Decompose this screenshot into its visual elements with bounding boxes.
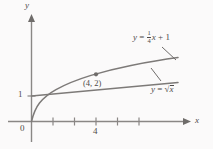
x-axis bbox=[8, 118, 191, 125]
line-label-leader bbox=[162, 47, 176, 60]
origin-label: 0 bbox=[20, 124, 25, 133]
tangency-point-label: (4, 2) bbox=[83, 79, 101, 88]
y-tick-label-1: 1 bbox=[18, 90, 23, 99]
fraction-numerator: 1 bbox=[147, 30, 151, 37]
fraction-denominator: 4 bbox=[147, 38, 151, 45]
radical-sign-icon: √x bbox=[165, 85, 174, 94]
y-axis-label: y bbox=[25, 1, 29, 10]
radical-vinculum bbox=[170, 85, 174, 86]
y-axis bbox=[28, 14, 35, 142]
plot-canvas bbox=[0, 0, 213, 149]
tangent-line-equation-label: y = 14x + 1 bbox=[133, 30, 170, 45]
line-label-constant: 1 bbox=[165, 32, 170, 42]
sqrt-curve-equation-label: y = √x bbox=[151, 85, 174, 94]
tangency-point-marker bbox=[94, 72, 98, 76]
curve-label-leader bbox=[151, 68, 161, 81]
x-axis-label: x bbox=[195, 116, 199, 125]
one-quarter-fraction: 14 bbox=[147, 30, 151, 45]
x-tick-label-4: 4 bbox=[93, 127, 98, 136]
graph-figure: y x 0 1 4 (4, 2) y = 14x + 1 y = √x bbox=[0, 0, 213, 149]
